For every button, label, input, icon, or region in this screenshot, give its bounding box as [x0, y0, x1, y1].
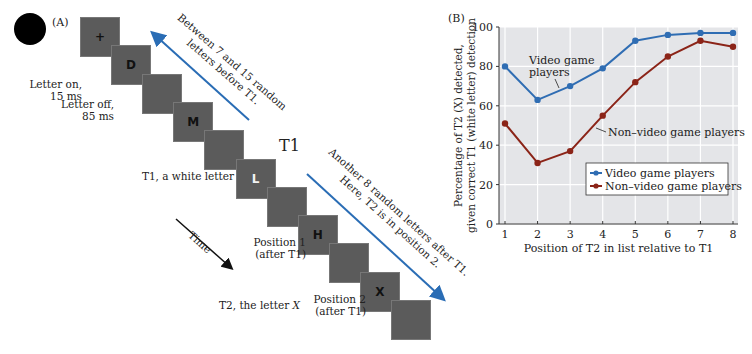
x-tick-label: 6	[664, 228, 671, 241]
x-tick-label: 1	[502, 228, 509, 241]
y-tick-label: 40	[479, 139, 493, 152]
detection-chart: 02040608010012345678Position of T2 in li…	[440, 0, 752, 354]
data-point	[502, 120, 508, 126]
y-tick-label: 20	[479, 179, 493, 192]
x-tick-label: 8	[730, 228, 737, 241]
data-point	[600, 65, 606, 71]
x-tick-label: 4	[599, 228, 606, 241]
x-tick-label: 5	[632, 228, 639, 241]
x-tick-label: 2	[534, 228, 541, 241]
y-axis-label: Percentage of T2 (X) detected,given corr…	[452, 18, 477, 233]
data-point	[632, 38, 638, 44]
data-point	[600, 112, 606, 118]
legend-marker	[593, 170, 598, 175]
y-tick-label: 80	[479, 60, 493, 73]
legend-label: Non–video game players	[605, 180, 742, 193]
data-point	[730, 30, 736, 36]
arrows-layer	[0, 0, 470, 354]
video-annotation-line2: players	[529, 66, 570, 79]
data-point	[730, 44, 736, 50]
legend-marker	[593, 183, 598, 188]
legend-label: Video game players	[604, 167, 715, 180]
data-point	[567, 148, 573, 154]
data-point	[534, 97, 540, 103]
data-point	[665, 53, 671, 59]
data-point	[665, 32, 671, 38]
x-tick-label: 7	[697, 228, 704, 241]
y-tick-label: 0	[486, 218, 493, 231]
y-tick-label: 60	[479, 100, 493, 113]
data-point	[697, 30, 703, 36]
data-point	[632, 79, 638, 85]
data-point	[697, 38, 703, 44]
x-axis-label: Position of T2 in list relative to T1	[524, 242, 713, 255]
nonvideo-annotation: Non–video game players	[608, 126, 745, 139]
x-tick-label: 3	[567, 228, 574, 241]
data-point	[534, 160, 540, 166]
data-point	[567, 83, 573, 89]
data-point	[502, 63, 508, 69]
